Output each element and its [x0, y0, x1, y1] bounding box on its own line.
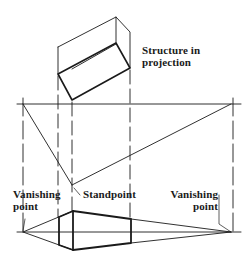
perspective-structure [59, 211, 131, 250]
sightline-left [23, 104, 72, 185]
label-vanishing-point-left: Vanishing point [13, 188, 61, 212]
label-vp-right-line1: Vanishing [170, 188, 218, 200]
label-vp-left-line1: Vanishing [13, 188, 61, 200]
label-structure-in-projection: Structure in projection [142, 44, 200, 68]
vp-right-leader [219, 195, 231, 232]
standpoint-leader [74, 188, 80, 195]
label-standpoint-text: Standpoint [83, 188, 136, 200]
label-vp-left-line2: point [13, 200, 61, 212]
label-vanishing-point-right: Vanishing point [170, 188, 218, 212]
perspective-diagram [0, 0, 248, 265]
sightline-right [72, 104, 231, 185]
label-vp-right-line2: point [170, 200, 218, 212]
label-standpoint: Standpoint [83, 188, 136, 200]
structure-plan [58, 17, 130, 100]
label-structure-line1: Structure in [142, 44, 200, 56]
label-structure-line2: projection [142, 56, 200, 68]
